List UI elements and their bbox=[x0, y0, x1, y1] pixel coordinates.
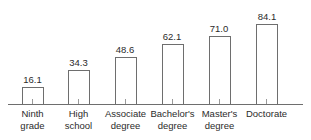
bar-chart: 16.1 34.3 48.6 62.1 71.0 84.1 Ninth grad… bbox=[0, 0, 311, 140]
x-tick-label-line1: Doctorate bbox=[246, 108, 287, 119]
bar-value-label: 48.6 bbox=[99, 44, 151, 55]
x-tick-label-line2: degree bbox=[186, 120, 253, 132]
x-tick-label-line1: Master's bbox=[202, 108, 238, 119]
bar-value-label: 71.0 bbox=[193, 23, 245, 34]
bar bbox=[209, 37, 230, 105]
bar-value-label: 34.3 bbox=[53, 57, 104, 68]
axis-ticks-group bbox=[33, 99, 267, 104]
bar-value-label: 62.1 bbox=[146, 31, 198, 42]
x-tick-label: Doctorate bbox=[233, 108, 300, 120]
x-tick-label-line1: High bbox=[69, 108, 89, 119]
bar bbox=[257, 25, 278, 105]
x-tick-label-line1: Ninth bbox=[21, 108, 43, 119]
bar bbox=[115, 58, 136, 105]
bar-value-label: 84.1 bbox=[241, 11, 293, 22]
bar-value-label: 16.1 bbox=[7, 74, 58, 85]
bar bbox=[162, 45, 183, 105]
